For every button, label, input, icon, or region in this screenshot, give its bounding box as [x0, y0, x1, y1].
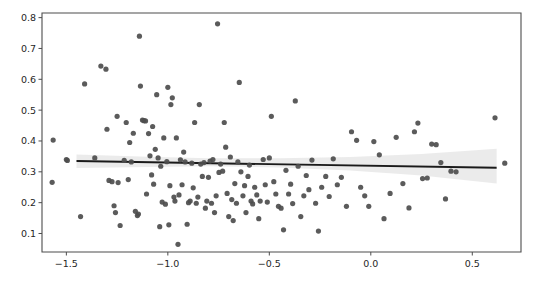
data-point — [167, 183, 172, 188]
data-point — [163, 202, 168, 207]
data-point — [254, 192, 259, 197]
data-point — [256, 216, 261, 221]
x-tick-label: 0.5 — [465, 258, 480, 269]
data-point — [197, 102, 202, 107]
data-point — [118, 223, 123, 228]
data-point — [220, 169, 225, 174]
data-point — [136, 211, 141, 216]
data-point — [344, 204, 349, 209]
data-point — [201, 160, 206, 165]
data-point — [172, 199, 177, 204]
data-point — [309, 158, 314, 163]
y-tick-label: 0.2 — [21, 197, 36, 208]
data-point — [200, 174, 205, 179]
scatter-points — [50, 21, 508, 247]
data-point — [212, 210, 217, 215]
data-point — [362, 193, 367, 198]
data-point — [195, 195, 200, 200]
data-point — [50, 180, 55, 185]
data-point — [182, 159, 187, 164]
y-tick-label: 0.1 — [21, 228, 36, 239]
data-point — [331, 156, 336, 161]
data-point — [250, 201, 255, 206]
data-point — [304, 173, 309, 178]
x-tick-label: 0.0 — [363, 258, 378, 269]
data-point — [242, 183, 247, 188]
y-tick-label: 0.8 — [21, 12, 36, 23]
axes-spines — [42, 13, 521, 252]
data-point — [138, 83, 143, 88]
data-point — [319, 185, 324, 190]
data-point — [387, 191, 392, 196]
data-point — [443, 196, 448, 201]
data-point — [109, 179, 114, 184]
data-point — [189, 161, 194, 166]
data-point — [222, 120, 227, 125]
data-point — [290, 201, 295, 206]
data-point — [271, 179, 276, 184]
y-tick-label: 0.3 — [21, 166, 36, 177]
data-point — [191, 185, 196, 190]
data-point — [129, 159, 134, 164]
data-point — [194, 201, 199, 206]
x-axis-ticks: −1.5−1.0−0.50.00.5 — [55, 252, 480, 269]
data-point — [267, 155, 272, 160]
data-point — [377, 152, 382, 157]
data-point — [127, 140, 132, 145]
data-point — [269, 114, 274, 119]
data-point — [188, 199, 193, 204]
data-point — [144, 191, 149, 196]
data-point — [234, 201, 239, 206]
data-point — [149, 172, 154, 177]
data-point — [245, 174, 250, 179]
data-point — [215, 21, 220, 26]
data-point — [261, 157, 266, 162]
data-point — [237, 80, 242, 85]
y-tick-label: 0.6 — [21, 74, 36, 85]
data-point — [400, 181, 405, 186]
data-point — [170, 95, 175, 100]
data-point — [175, 242, 180, 247]
scatter-plot[interactable]: −1.5−1.0−0.50.00.5 0.10.20.30.40.50.60.7… — [0, 0, 540, 287]
data-point — [235, 159, 240, 164]
y-tick-label: 0.7 — [21, 43, 36, 54]
data-point — [210, 157, 215, 162]
data-point — [366, 204, 371, 209]
data-point — [178, 157, 183, 162]
data-point — [228, 154, 233, 159]
data-point — [143, 118, 148, 123]
data-point — [273, 191, 278, 196]
data-point — [252, 185, 257, 190]
data-point — [296, 164, 301, 169]
x-tick-label: −0.5 — [258, 258, 281, 269]
data-point — [502, 161, 507, 166]
data-point — [122, 158, 127, 163]
data-point — [176, 192, 181, 197]
data-point — [203, 206, 208, 211]
data-point — [206, 175, 211, 180]
data-point — [153, 147, 158, 152]
data-point — [258, 199, 263, 204]
data-point — [438, 160, 443, 165]
data-point — [232, 181, 237, 186]
data-point — [429, 141, 434, 146]
data-point — [448, 169, 453, 174]
data-point — [126, 177, 131, 182]
data-point — [204, 199, 209, 204]
data-point — [111, 203, 116, 208]
data-point — [226, 214, 231, 219]
data-point — [313, 201, 318, 206]
data-point — [316, 228, 321, 233]
data-point — [164, 159, 169, 164]
x-tick-label: −1.5 — [55, 258, 78, 269]
data-point — [92, 155, 97, 160]
data-point — [78, 214, 83, 219]
data-point — [293, 98, 298, 103]
data-point — [231, 218, 236, 223]
data-point — [381, 216, 386, 221]
data-point — [339, 175, 344, 180]
data-point — [209, 201, 214, 206]
data-point — [168, 102, 173, 107]
data-point — [327, 194, 332, 199]
data-point — [131, 131, 136, 136]
